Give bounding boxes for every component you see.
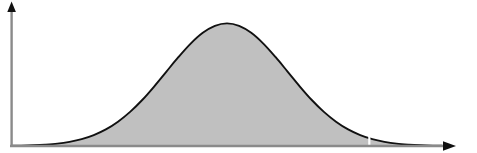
y-axis-arrow-icon [7, 2, 16, 13]
distribution-area-fill [12, 23, 442, 146]
normal-distribution-figure [0, 0, 477, 153]
x-axis-arrow-icon [443, 141, 456, 151]
chart-canvas [0, 0, 477, 153]
